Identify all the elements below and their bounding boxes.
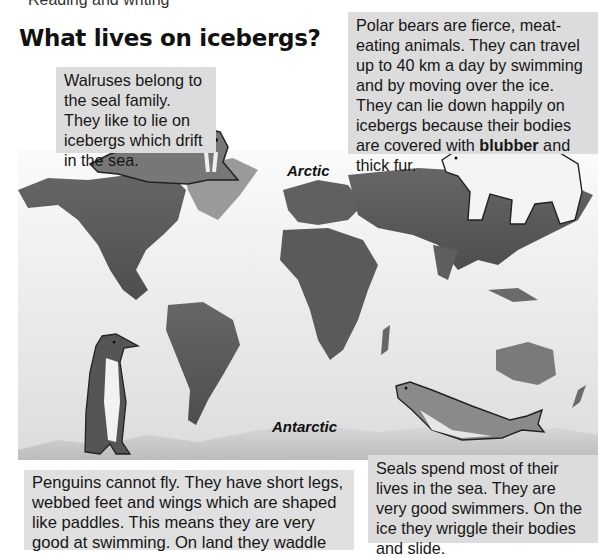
cut-off-header: Reading and writing	[28, 0, 169, 9]
antarctic-label: Antarctic	[272, 418, 337, 435]
africa	[280, 228, 378, 360]
new-zealand	[572, 385, 586, 408]
page-title: What lives on icebergs?	[19, 25, 321, 51]
polar-bear-icon	[440, 142, 590, 234]
polar-bear-info-box: Polar bears are fierce, meat-eating anim…	[348, 12, 598, 154]
penguin-icon	[80, 332, 145, 460]
arctic-label: Arctic	[287, 162, 330, 179]
seal-info-box: Seals spend most of their lives in the s…	[368, 455, 598, 543]
blubber-keyword: blubber	[479, 136, 538, 154]
penguin-info-box: Penguins cannot fly. They have short leg…	[24, 470, 354, 550]
seal-icon	[392, 380, 552, 448]
australia	[496, 342, 556, 385]
madagascar	[381, 325, 390, 355]
south-america	[166, 302, 240, 425]
walrus-info-box: Walruses belong to the seal family. They…	[56, 67, 216, 153]
polar-bear-text: Polar bears are fierce, meat-eating anim…	[356, 16, 583, 154]
seal-text: Seals spend most of their lives in the s…	[376, 459, 582, 557]
penguin-text: Penguins cannot fly. They have short leg…	[32, 473, 343, 552]
se-asia-islands	[488, 288, 538, 302]
